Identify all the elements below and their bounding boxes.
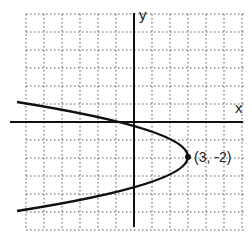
- vertex-point: [185, 154, 191, 160]
- parabola-curve: [17, 102, 188, 211]
- parabola-plot: y x (3, -2): [0, 0, 252, 233]
- x-axis-label: x: [235, 99, 243, 116]
- vertex-label: (3, -2): [194, 149, 231, 165]
- y-axis-label: y: [139, 6, 147, 23]
